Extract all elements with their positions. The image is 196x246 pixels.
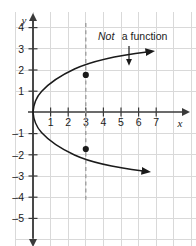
y-tick-label: 1 xyxy=(18,85,24,97)
x-tick-label: 6 xyxy=(136,116,142,128)
x-tick-label: 2 xyxy=(65,116,71,128)
y-tick-label: –5 xyxy=(12,212,24,224)
annotation-plain-text: a function xyxy=(122,30,168,42)
graph-figure: 1 2 3 4 5 6 7 4 3 2 1 –1 –2 –3 –4 –5 x y xyxy=(0,0,196,246)
marked-point-lower xyxy=(83,146,89,152)
y-axis-label: y xyxy=(21,14,27,26)
y-tick-label: –2 xyxy=(12,149,24,161)
marked-point-upper xyxy=(83,72,89,78)
x-tick-label: 7 xyxy=(153,116,159,128)
y-tick-label: –3 xyxy=(12,170,24,182)
coordinate-plane-graph: 1 2 3 4 5 6 7 4 3 2 1 –1 –2 –3 –4 –5 x y xyxy=(0,0,196,246)
y-tick-label: 2 xyxy=(18,64,24,76)
x-tick-label: 5 xyxy=(118,116,124,128)
x-tick-label: 4 xyxy=(100,116,106,128)
y-tick-label: –1 xyxy=(12,127,24,139)
x-axis-label: x xyxy=(177,117,183,129)
annotation-italic-word: Not xyxy=(98,30,115,42)
y-tick-label: –4 xyxy=(12,191,24,203)
y-tick-label: 3 xyxy=(18,43,24,55)
x-tick-label: 1 xyxy=(48,116,54,128)
